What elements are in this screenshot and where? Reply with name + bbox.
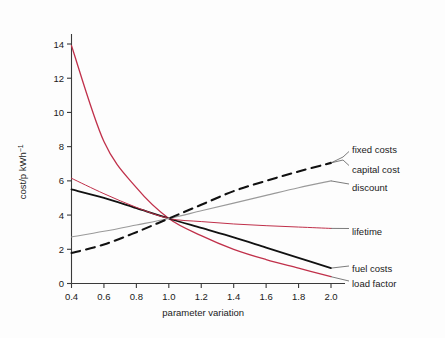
x-tick-label: 1.4 [227, 291, 240, 302]
series-label-fuel-costs: fuel costs [352, 263, 392, 274]
series-line-load-factor [72, 46, 332, 277]
series-line-capital-cost [72, 163, 332, 253]
chart-figure: 024681012140.40.60.81.01.21.41.61.82.0 f… [0, 0, 445, 338]
series-line-fuel-costs [72, 189, 332, 268]
series-label-lifetime: lifetime [352, 226, 382, 237]
x-tick-label: 0.4 [65, 291, 78, 302]
y-tick-label: 10 [53, 107, 64, 118]
x-tick-label: 1.8 [292, 291, 305, 302]
x-tick-label: 0.8 [130, 291, 143, 302]
y-tick-label: 4 [59, 210, 64, 221]
x-tick-label: 2.0 [324, 291, 337, 302]
chart-canvas: 024681012140.40.60.81.01.21.41.61.82.0 f… [0, 0, 445, 338]
y-tick-label: 0 [59, 278, 64, 289]
y-tick-label: 2 [59, 244, 64, 255]
axes-group: 024681012140.40.60.81.01.21.41.61.82.0 [53, 34, 345, 302]
x-tick-label: 0.6 [97, 291, 110, 302]
series-line-lifetime [72, 178, 332, 228]
series-label-discount: discount [352, 182, 388, 193]
leader-line-fuel-costs [331, 266, 349, 268]
leader-line-fixed-costs [331, 152, 349, 163]
series-label-load-factor: load factor [352, 278, 396, 289]
annotations-group: fixed costscapital costdiscountlifetimef… [331, 144, 400, 289]
x-tick-label: 1.6 [260, 291, 273, 302]
y-tick-label: 12 [53, 73, 64, 84]
leader-line-discount [331, 181, 349, 184]
x-axis-title: parameter variation [162, 307, 244, 318]
series-label-fixed-costs: fixed costs [352, 144, 397, 155]
x-tick-label: 1.0 [162, 291, 175, 302]
y-tick-label: 6 [59, 175, 64, 186]
leader-line-capital-cost [331, 160, 349, 166]
leader-line-load-factor [331, 277, 349, 281]
x-tick-label: 1.2 [195, 291, 208, 302]
series-label-capital-cost: capital cost [352, 164, 400, 175]
y-axis-title: cost/p kWh−1 [17, 144, 29, 199]
curves-group [72, 46, 332, 277]
y-tick-label: 8 [59, 141, 64, 152]
y-tick-label: 14 [53, 39, 64, 50]
